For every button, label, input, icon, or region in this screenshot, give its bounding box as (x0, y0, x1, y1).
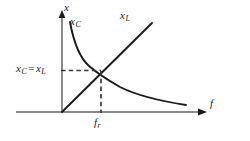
y-axis-label: x (64, 2, 69, 13)
resonant-frequency-label: fr (94, 117, 101, 130)
capacitive-reactance-curve (70, 22, 186, 105)
capacitive-curve-label: xC (70, 16, 81, 29)
intersection-label-subscript-1: C (21, 67, 27, 76)
x-axis-label: f (210, 98, 213, 109)
intersection-y-value-label: xC=xL (16, 63, 46, 76)
intersection-label-subscript-2: L (41, 67, 46, 76)
inductive-curve-label-subscript: L (125, 14, 130, 23)
x-axis-arrowhead (198, 108, 207, 115)
inductive-curve-label: xL (120, 10, 130, 23)
inductive-reactance-line (62, 23, 152, 112)
capacitive-curve-label-subscript: C (75, 20, 81, 29)
resonant-frequency-label-subscript: r (97, 121, 101, 130)
intersection-label-equals-sign: = (27, 62, 36, 74)
reactance-vs-frequency-figure: x xC xL xC=xL fr f (0, 0, 250, 141)
